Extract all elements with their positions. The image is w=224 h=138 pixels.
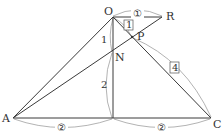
ratio-NM: 2	[101, 79, 107, 90]
ratio-MC: ②	[157, 122, 166, 133]
segment-OC	[113, 17, 211, 118]
label-O: O	[104, 5, 113, 18]
ratio-OR: ①	[133, 8, 142, 19]
point-P-dot	[131, 36, 133, 38]
label-C: C	[213, 118, 221, 131]
label-N: N	[115, 51, 125, 64]
geometry-diagram: O R P N A C ① 1 1 2 4 ② ②	[0, 0, 224, 138]
label-R: R	[166, 10, 175, 23]
ratio-OP: 1	[126, 19, 132, 30]
ratio-ON: 1	[101, 34, 107, 45]
label-A: A	[1, 112, 11, 125]
ratio-AM: ②	[57, 122, 66, 133]
figure-lines	[13, 17, 211, 118]
segment-OA	[13, 17, 113, 118]
ratio-PC: 4	[172, 62, 178, 73]
label-P: P	[137, 30, 145, 43]
